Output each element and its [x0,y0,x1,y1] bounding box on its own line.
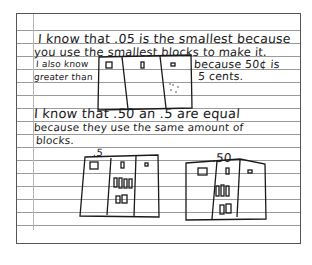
dots [169,83,178,92]
drawings [0,0,312,265]
left-block-drawing [80,155,159,217]
right-block-drawing [186,159,266,220]
top-block-drawing [98,55,192,110]
